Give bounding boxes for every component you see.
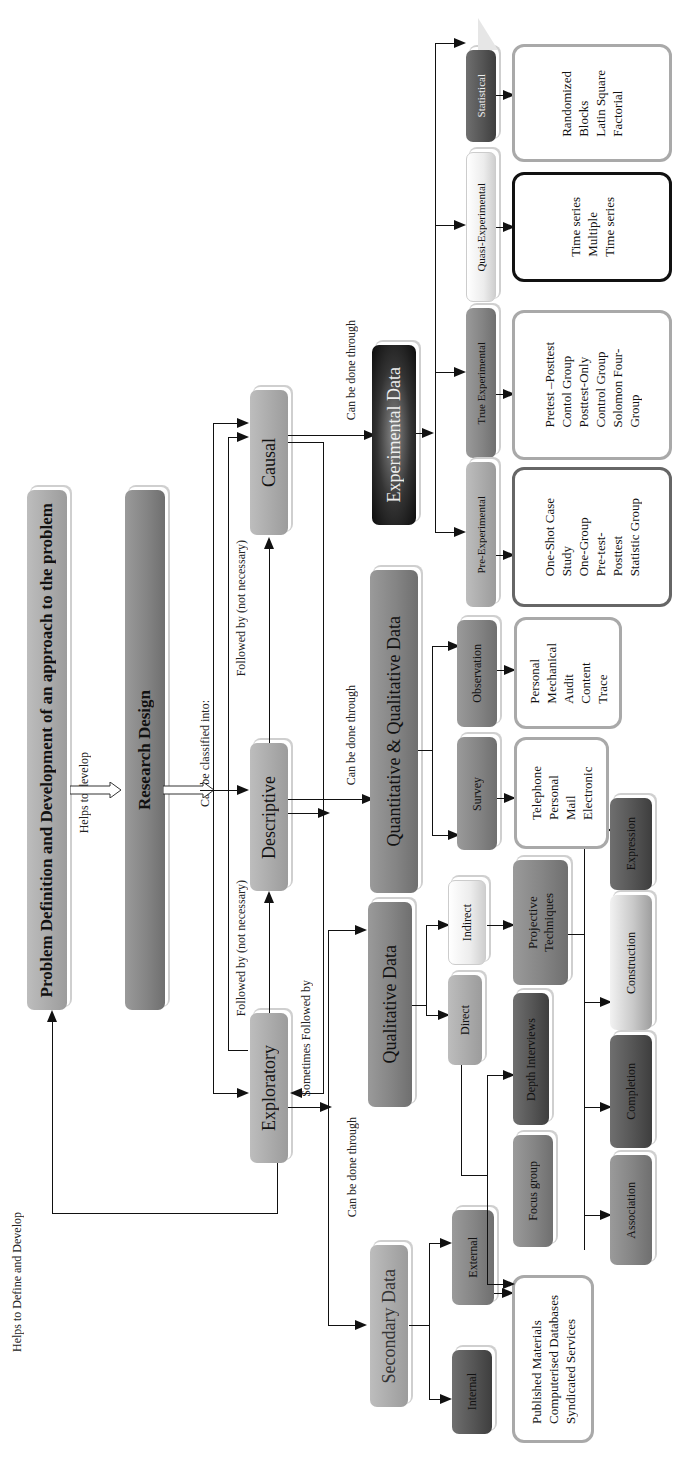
design-item: Blocks bbox=[575, 70, 592, 137]
statistical-box: Statistical bbox=[466, 50, 496, 142]
design-item: Latin Square bbox=[592, 70, 609, 137]
internal-label: Internal bbox=[465, 1373, 480, 1410]
survey-methods-list: Telephone Personal Mail Electronic bbox=[514, 737, 609, 849]
direct-box: Direct bbox=[448, 975, 482, 1065]
design-item: Solomon Four- bbox=[609, 342, 626, 428]
design-item: Group bbox=[626, 342, 643, 428]
design-item: Factorial bbox=[609, 70, 626, 137]
design-item: One-Group bbox=[575, 498, 592, 576]
method-item: Mail bbox=[562, 766, 579, 820]
association-box: Association bbox=[610, 1155, 652, 1265]
pre-experimental-box: Pre-Experimental bbox=[466, 462, 496, 607]
design-item: Pre-test- bbox=[592, 498, 609, 576]
helps-to-define-label: Helps to Define and Develop bbox=[10, 1212, 25, 1352]
focus-group-box: Focus group bbox=[513, 1135, 553, 1247]
design-item: Pretest –Posttest bbox=[541, 342, 558, 428]
external-label: External bbox=[466, 1237, 481, 1278]
method-item: Content bbox=[577, 643, 594, 704]
design-item: Contol Group bbox=[558, 342, 575, 428]
method-item: Trace bbox=[594, 643, 611, 704]
quant-qual-data-label: Quantitative & Qualitative Data bbox=[384, 616, 405, 846]
design-item: Randomized bbox=[558, 70, 575, 137]
design-item: Statistic Group bbox=[626, 498, 643, 576]
hollow-arrow-icon bbox=[70, 782, 122, 798]
quant-qual-data-box: Quantitative & Qualitative Data bbox=[370, 570, 418, 893]
true-experimental-box: True Experimental bbox=[466, 308, 496, 458]
causal-label: Causal bbox=[259, 438, 280, 487]
causal-box: Causal bbox=[250, 390, 288, 535]
quasi-experimental-label: Quasi-Experimental bbox=[475, 183, 487, 272]
source-item: Syndicated Services bbox=[562, 1295, 579, 1424]
method-item: Personal bbox=[545, 766, 562, 820]
completion-label: Completion bbox=[624, 1063, 639, 1120]
can-be-done-through-secondary: Can be done through bbox=[345, 1117, 360, 1217]
design-item: Time series bbox=[601, 197, 618, 257]
method-item: Audit bbox=[560, 643, 577, 704]
focus-group-label: Focus group bbox=[526, 1161, 541, 1221]
indirect-label: Indirect bbox=[460, 904, 475, 941]
exploratory-box: Exploratory bbox=[250, 1013, 288, 1163]
research-design-label: Research Design bbox=[135, 690, 155, 810]
followed-by-label-1: Followed by (not necessary) bbox=[234, 880, 249, 1016]
observation-label: Observation bbox=[470, 644, 485, 703]
design-item: One-Shot Case bbox=[541, 498, 558, 576]
problem-definition-label: Problem Definition and Development of an… bbox=[37, 503, 57, 997]
problem-definition-box: Problem Definition and Development of an… bbox=[27, 490, 67, 1010]
expression-box: Expression bbox=[610, 798, 652, 890]
internal-box: Internal bbox=[452, 1350, 492, 1434]
construction-label: Construction bbox=[624, 932, 639, 994]
depth-interviews-box: Depth Interviews bbox=[513, 993, 549, 1125]
method-item: Personal bbox=[526, 643, 543, 704]
can-be-done-through-quant: Can be done through bbox=[344, 685, 359, 785]
statistical-items-list: Randomized Blocks Latin Square Factorial bbox=[512, 44, 672, 162]
design-item: Posttest-Only bbox=[575, 342, 592, 428]
true-experimental-items-list: Pretest –Posttest Contol Group Posttest-… bbox=[512, 310, 672, 460]
pre-experimental-label: Pre-Experimental bbox=[475, 496, 487, 574]
arrow-up-icon bbox=[47, 1010, 57, 1022]
quasi-experimental-box: Quasi-Experimental bbox=[466, 152, 496, 302]
descriptive-box: Descriptive bbox=[250, 743, 288, 891]
observation-box: Observation bbox=[457, 620, 497, 727]
true-experimental-label: True Experimental bbox=[475, 342, 487, 424]
design-item: Posttest bbox=[609, 498, 626, 576]
design-item: Multiple bbox=[584, 197, 601, 257]
quasi-items-list: Time series Multiple Time series bbox=[512, 172, 672, 282]
qualitative-data-label: Qualitative Data bbox=[380, 945, 401, 1063]
experimental-data-label: Experimental Data bbox=[384, 367, 405, 502]
completion-box: Completion bbox=[610, 1035, 652, 1148]
can-be-done-through-exp: Can be done through bbox=[344, 320, 359, 420]
projective-techniques-box: Projective Techniques bbox=[513, 860, 568, 985]
followed-by-label-2: Followed by (not necessary) bbox=[234, 540, 249, 676]
survey-label: Survey bbox=[470, 777, 485, 811]
source-item: Published Materials bbox=[528, 1295, 545, 1424]
survey-box: Survey bbox=[457, 737, 497, 850]
construction-box: Construction bbox=[610, 895, 652, 1030]
method-item: Telephone bbox=[528, 766, 545, 820]
corner-triangle-icon bbox=[478, 18, 498, 50]
techniques-line: Techniques bbox=[541, 893, 556, 952]
projective-line: Projective bbox=[525, 896, 540, 949]
method-item: Electronic bbox=[579, 766, 596, 820]
depth-interviews-label: Depth Interviews bbox=[524, 1018, 539, 1101]
experimental-data-box: Experimental Data bbox=[372, 345, 416, 525]
pre-experimental-items-list: One-Shot Case Study One-Group Pre-test- … bbox=[512, 467, 672, 607]
secondary-sources-list: Published Materials Computerised Databas… bbox=[512, 1275, 594, 1443]
research-design-box: Research Design bbox=[125, 490, 165, 1010]
association-label: Association bbox=[624, 1182, 639, 1239]
expression-label: Expression bbox=[624, 817, 639, 870]
secondary-data-label: Secondary Data bbox=[379, 1269, 400, 1383]
projective-label: Projective Techniques bbox=[525, 893, 557, 952]
method-item: Mechanical bbox=[543, 643, 560, 704]
design-item: Control Group bbox=[592, 342, 609, 428]
design-item: Study bbox=[558, 498, 575, 576]
descriptive-label: Descriptive bbox=[259, 776, 280, 859]
direct-label: Direct bbox=[458, 1005, 473, 1035]
design-item: Time series bbox=[567, 197, 584, 257]
sometimes-followed-label: Sometimes Followed by bbox=[299, 980, 314, 1097]
statistical-label: Statistical bbox=[475, 74, 487, 117]
secondary-data-box: Secondary Data bbox=[370, 1245, 408, 1407]
observation-methods-list: Personal Mechanical Audit Content Trace bbox=[514, 617, 622, 729]
qualitative-data-box: Qualitative Data bbox=[368, 902, 412, 1107]
indirect-box: Indirect bbox=[448, 880, 486, 965]
exploratory-label: Exploratory bbox=[259, 1045, 280, 1131]
